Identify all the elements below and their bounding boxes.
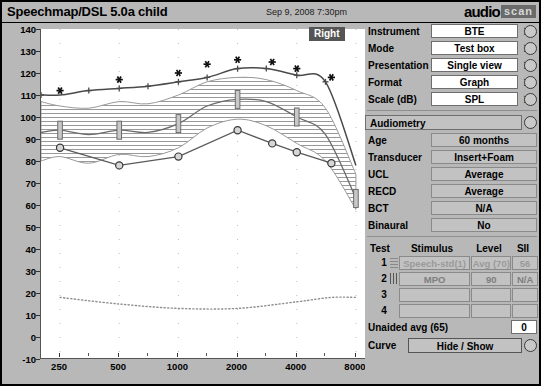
- speechmap-plot[interactable]: [40, 29, 365, 359]
- y-axis-tick-label: 30: [2, 266, 36, 277]
- ltass-ibeam-marker: [58, 121, 63, 139]
- threshold-marker: [116, 162, 123, 169]
- y-axis-tick-label: 70: [2, 178, 36, 189]
- cell-stimulus[interactable]: [399, 288, 471, 302]
- y-axis-tick-label: 120: [2, 68, 36, 79]
- setting-knob-icon[interactable]: [524, 76, 537, 89]
- row-number: 4: [365, 305, 390, 316]
- audiometry-knob-icon[interactable]: [524, 116, 537, 129]
- setting-knob-icon[interactable]: [524, 93, 537, 106]
- audioscan-logo: audio scan: [464, 3, 536, 20]
- setting-value[interactable]: Test box: [431, 41, 518, 55]
- y-axis-tick-mark: [36, 359, 40, 360]
- audiometry-value[interactable]: 60 months: [431, 133, 537, 147]
- setting-value[interactable]: SPL: [431, 92, 518, 106]
- audiometry-value[interactable]: N/A: [431, 201, 537, 215]
- mpo-plus-marker: [294, 72, 300, 78]
- setting-knob-icon[interactable]: [524, 42, 537, 55]
- setting-label: Scale (dB): [365, 94, 431, 105]
- x-axis-tick-label: 250: [51, 361, 67, 372]
- mpo-plus-marker: [41, 92, 44, 98]
- audiometry-header-row[interactable]: Audiometry: [365, 114, 539, 130]
- x-axis-tick-mark: [296, 353, 297, 357]
- test-table: Test Stimulus Level SII 1Speech-std(1)Av…: [365, 241, 539, 354]
- curve-row[interactable]: Curve Hide / Show: [365, 337, 539, 354]
- row-number: 2: [365, 273, 390, 284]
- y-axis-tick-mark: [36, 227, 40, 228]
- col-header-level: Level: [469, 243, 509, 254]
- curve-knob-icon[interactable]: [524, 339, 537, 352]
- y-axis-tick-label: 50: [2, 222, 36, 233]
- setting-value[interactable]: BTE: [431, 24, 518, 38]
- audiometry-label: BCT: [365, 203, 431, 214]
- y-axis-tick-label: 130: [2, 46, 36, 57]
- cell-level[interactable]: Avg (70): [471, 256, 511, 270]
- table-row[interactable]: 4: [365, 303, 539, 318]
- cell-level[interactable]: [471, 288, 511, 302]
- x-axis-minor-tick: [265, 353, 266, 356]
- audiometry-value[interactable]: Insert+Foam: [431, 150, 537, 164]
- x-axis-tick-label: 4000: [285, 361, 306, 372]
- audiometry-label: UCL: [365, 169, 431, 180]
- y-axis-tick-label: 0: [2, 332, 36, 343]
- setting-row-presentation: PresentationSingle view⋮: [365, 57, 539, 73]
- chart-area: -100102030405060708090100110120130140 25…: [2, 23, 365, 384]
- audiometry-row-binaural: BinauralNo: [365, 217, 539, 233]
- curve-hide-show-button[interactable]: Hide / Show: [408, 338, 522, 353]
- setting-row-mode: ModeTest box⋮: [365, 40, 539, 56]
- ltass-ibeam-marker: [235, 90, 240, 108]
- row-number: 1: [365, 257, 390, 268]
- y-axis-tick-label: 90: [2, 134, 36, 145]
- ucl-asterisk-marker: [328, 74, 335, 80]
- ltass-ibeam-marker: [117, 121, 122, 139]
- cell-stimulus[interactable]: [399, 304, 471, 318]
- ucl-asterisk-marker: [293, 65, 300, 71]
- x-axis-minor-tick: [147, 353, 148, 356]
- curve-label: Curve: [365, 340, 408, 351]
- setting-value[interactable]: Single view: [431, 58, 518, 72]
- ucl-asterisk-marker: [116, 76, 123, 82]
- x-axis-tick-label: 2000: [226, 361, 247, 372]
- y-axis-tick-mark: [36, 293, 40, 294]
- setting-row-format: FormatGraph⋮: [365, 74, 539, 90]
- cell-sii: [512, 304, 538, 318]
- timestamp: Sep 9, 2008 7:30pm: [266, 7, 347, 17]
- plot-canvas: [41, 29, 366, 359]
- audiometry-group: Age60 monthsTransducerInsert+FoamUCLAver…: [365, 132, 539, 233]
- x-axis-tick-label: 1000: [167, 361, 188, 372]
- unaided-avg-value: 0: [511, 320, 537, 334]
- setting-knob-icon[interactable]: [524, 59, 537, 72]
- cell-level[interactable]: [471, 304, 511, 318]
- mpo-plus-marker: [86, 88, 92, 94]
- cell-stimulus[interactable]: MPO: [399, 272, 471, 286]
- speech-banana-region: [41, 77, 356, 209]
- setting-knob-icon[interactable]: [524, 25, 537, 38]
- mpo-plus-marker: [175, 79, 181, 85]
- table-row[interactable]: 2MPO90N/A: [365, 271, 539, 286]
- audiometry-value[interactable]: No: [431, 218, 537, 232]
- table-row[interactable]: 3: [365, 287, 539, 302]
- cell-sii: [512, 288, 538, 302]
- y-axis-tick-label: 110: [2, 90, 36, 101]
- table-row[interactable]: 1Speech-std(1)Avg (70)56: [365, 255, 539, 270]
- divider-2: [367, 236, 537, 237]
- audiometry-value[interactable]: Average: [431, 167, 537, 181]
- setting-label: Presentation: [365, 60, 431, 71]
- divider: [367, 110, 537, 111]
- setting-value[interactable]: Graph: [431, 75, 518, 89]
- y-axis-tick-label: 20: [2, 288, 36, 299]
- y-axis-tick-mark: [36, 271, 40, 272]
- col-header-stimulus: Stimulus: [395, 243, 469, 254]
- title-bar: Speechmap/DSL 5.0a child Sep 9, 2008 7:3…: [2, 2, 539, 23]
- col-header-test: Test: [365, 243, 395, 254]
- cell-level[interactable]: 90: [471, 272, 511, 286]
- cell-stimulus[interactable]: Speech-std(1): [399, 256, 471, 270]
- audiometry-row-age: Age60 months: [365, 132, 539, 148]
- audiometry-value[interactable]: Average: [431, 184, 537, 198]
- table-header-row: Test Stimulus Level SII: [365, 241, 539, 255]
- setting-label: Instrument: [365, 26, 431, 37]
- row-number: 3: [365, 289, 390, 300]
- y-axis-tick-label: 10: [2, 310, 36, 321]
- y-axis-tick-mark: [36, 337, 40, 338]
- y-axis-tick-mark: [36, 315, 40, 316]
